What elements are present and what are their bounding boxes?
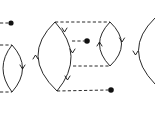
dashed-line-bottom — [57, 90, 108, 91]
vertex-dot — [108, 87, 114, 93]
loop-left-arc — [139, 18, 156, 84]
small-loop-right-arc — [110, 22, 122, 66]
loop-right-arc — [12, 45, 23, 92]
arrow-down-icon — [65, 76, 70, 80]
big-loop-right-arc — [55, 22, 71, 91]
loop-left-arc — [3, 45, 12, 92]
vertex-dot — [8, 20, 13, 25]
arrow-down-icon — [133, 51, 138, 55]
arrow-down-icon — [120, 38, 125, 42]
feynman-diagram — [0, 0, 155, 122]
vertex-dot — [84, 38, 90, 44]
left-partial-diagram — [0, 20, 25, 92]
big-loop-left-arc — [38, 22, 57, 91]
arrow-up-icon — [33, 55, 38, 59]
center-diagram — [33, 22, 125, 93]
right-partial-diagram — [133, 18, 155, 84]
